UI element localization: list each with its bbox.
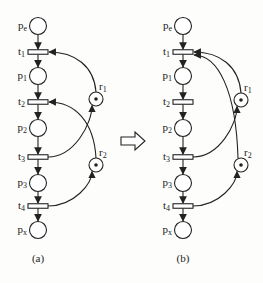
place-label-p3: p3 [163,176,173,190]
place-label-p2: p2 [163,121,173,135]
place-label-px: px [18,223,28,237]
place-label-pe: pe [163,19,173,33]
resource-arc-t4-r2 [48,172,92,207]
transition-t1 [28,50,48,55]
transition-t4 [173,204,193,209]
transition-label-t4: t4 [18,199,25,213]
place-label-p3: p3 [18,176,28,190]
token-r2 [239,163,243,167]
place-label-p1: p1 [163,69,173,83]
token-r1 [239,98,243,102]
place-p3 [175,175,192,192]
petri-net-diagram: pep1p2p3pxt1t2t3t4r1r2(a) pep1p2p3pxt1t2… [0,0,263,283]
petri-net-a: pep1p2p3pxt1t2t3t4r1r2(a) [18,18,107,266]
resource-label-r1: r1 [99,80,107,94]
transition-label-t3: t3 [163,150,170,164]
place-p3 [30,175,47,192]
transition-t3 [173,155,193,160]
place-p2 [175,120,192,137]
place-label-p1: p1 [18,69,28,83]
resource-label-r2: r2 [99,146,107,160]
place-px [30,222,47,239]
transition-t4 [28,204,48,209]
resource-label-r2: r2 [244,146,252,160]
transform-arrow-icon [121,132,145,150]
resource-arc-r1-t1 [194,52,241,93]
resource-arc-t3-r1 [193,107,237,158]
resource-arc-r2-t1 [194,55,238,158]
transition-label-t4: t4 [163,199,170,213]
token-r1 [94,97,98,101]
petri-net-b: pep1p2p3pxt1t2t3t4r1r2(b) [163,18,252,266]
caption-a: (a) [32,252,45,265]
transition-t2 [173,100,193,105]
resource-label-r1: r1 [244,81,252,95]
transition-t2 [28,100,48,105]
resource-arc-t4-r2 [193,172,237,207]
transition-t1 [173,50,193,55]
place-p1 [175,68,192,85]
transition-t3 [28,155,48,160]
place-pe [30,18,47,35]
transition-label-t2: t2 [18,95,25,109]
place-p1 [30,68,47,85]
caption-b: (b) [177,252,190,265]
place-p2 [30,120,47,137]
place-label-pe: pe [18,19,28,33]
transition-label-t2: t2 [163,95,170,109]
place-label-p2: p2 [18,121,28,135]
place-px [175,222,192,239]
resource-arc-r2-t2 [49,102,96,158]
resource-arc-r1-t1 [49,52,96,92]
place-pe [175,18,192,35]
place-label-px: px [163,223,173,237]
transition-label-t1: t1 [18,45,25,59]
transition-label-t3: t3 [18,150,25,164]
resource-arc-t3-r1 [48,106,92,158]
token-r2 [94,163,98,167]
transition-label-t1: t1 [163,45,170,59]
